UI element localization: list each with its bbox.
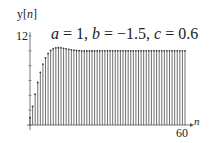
stem-marker: [176, 50, 178, 52]
stem-marker: [130, 50, 132, 52]
stem-marker: [34, 93, 36, 95]
stem-marker: [153, 50, 155, 52]
stem-marker: [104, 50, 106, 52]
stem-marker: [78, 50, 80, 52]
stem-marker: [163, 50, 165, 52]
stem-marker: [127, 50, 129, 52]
stem-marker: [169, 50, 171, 52]
stem-marker: [91, 50, 93, 52]
stem-marker: [122, 50, 124, 52]
stem-marker: [125, 50, 127, 52]
stem-marker: [42, 63, 44, 65]
stem-marker: [81, 50, 83, 52]
stem-marker: [50, 49, 52, 51]
stem-marker: [114, 50, 116, 52]
stem-marker: [171, 50, 173, 52]
stem-marker: [29, 117, 31, 119]
stem-marker: [174, 50, 176, 52]
stem-marker: [89, 50, 91, 52]
stem-marker: [140, 50, 142, 52]
stem-marker: [65, 48, 67, 50]
stem-marker: [99, 50, 101, 52]
stem-marker: [107, 50, 109, 52]
stem-marker: [60, 47, 62, 49]
y-axis-label: y[n]: [17, 7, 37, 22]
y-tick-label-12: 12: [16, 29, 28, 44]
stem-marker: [70, 49, 72, 51]
stem-marker: [151, 50, 153, 52]
stem-marker: [182, 50, 184, 52]
stem-marker: [109, 50, 111, 52]
stem-marker: [32, 106, 34, 108]
stem-marker: [73, 49, 75, 51]
stem-marker: [135, 50, 137, 52]
stem-marker: [39, 71, 41, 73]
stem-marker: [166, 50, 168, 52]
stem-marker: [86, 50, 88, 52]
stem-marker: [161, 50, 163, 52]
stem-marker: [156, 50, 158, 52]
x-tick-label-60: 60: [176, 126, 188, 141]
stem-marker: [179, 50, 181, 52]
stem-marker: [45, 57, 47, 59]
stem-marker: [37, 82, 39, 84]
stem-marker: [148, 50, 150, 52]
stem-marker: [94, 50, 96, 52]
stem-marker: [83, 50, 85, 52]
stem-marker: [145, 50, 147, 52]
stem-marker: [120, 50, 122, 52]
chart-title: a = 1, b = −1.5, c = 0.6: [51, 25, 198, 43]
stem-marker: [112, 50, 114, 52]
stem-marker: [68, 48, 70, 50]
stem-marker: [117, 50, 119, 52]
stem-marker: [138, 50, 140, 52]
stem-marker: [52, 48, 54, 50]
stem-marker: [132, 50, 134, 52]
stem-marker: [184, 50, 186, 52]
stem-marker: [55, 47, 57, 49]
stem-marker: [158, 50, 160, 52]
stem-marker: [47, 52, 49, 54]
stem-marker: [101, 50, 103, 52]
stem-marker: [76, 50, 78, 52]
x-axis-label: n: [194, 115, 200, 127]
stem-marker: [63, 47, 65, 49]
stem-marker: [96, 50, 98, 52]
stem-marker: [143, 50, 145, 52]
stem-marker: [58, 47, 60, 49]
